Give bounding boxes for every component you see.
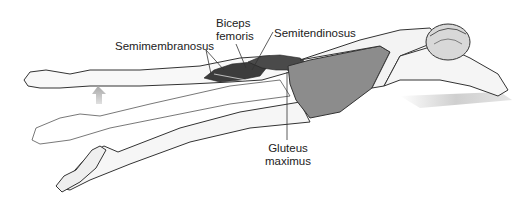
label-biceps-femoris: Biceps femoris [216, 17, 254, 43]
label-semitendinosus-text: Semitendinosus [274, 27, 356, 39]
label-biceps-femoris-line2: femoris [216, 30, 254, 43]
anatomy-illustration [0, 0, 527, 203]
label-semimembranosus: Semimembranosus [115, 40, 214, 53]
label-semimembranosus-text: Semimembranosus [115, 40, 214, 52]
label-gluteus-maximus-line2: maximus [263, 155, 313, 168]
up-arrow-icon [92, 86, 106, 104]
label-biceps-femoris-line1: Biceps [216, 17, 254, 30]
label-gluteus-maximus: Gluteus maximus [263, 142, 313, 168]
head [426, 24, 470, 60]
label-semitendinosus: Semitendinosus [274, 27, 356, 40]
label-gluteus-maximus-line1: Gluteus [263, 142, 313, 155]
